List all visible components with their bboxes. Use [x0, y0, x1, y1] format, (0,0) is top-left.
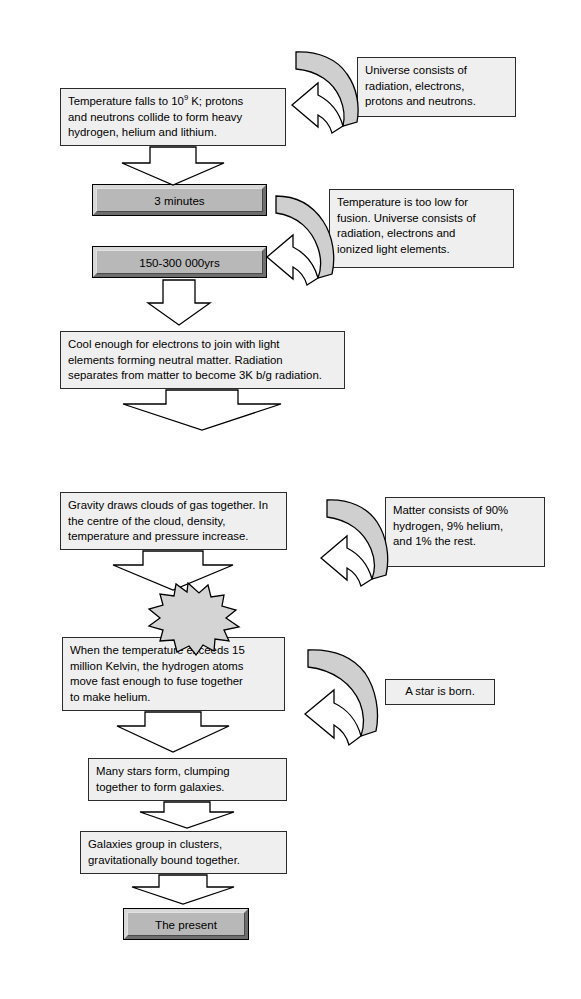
box-line: gravitationally bound together.: [88, 853, 279, 869]
box-line: fusion. Universe consists of: [337, 211, 506, 227]
box-line: A star is born.: [393, 684, 487, 700]
box-line: Universe consists of: [365, 63, 508, 79]
timebox-150-300-kyrs: 150-300 000yrs: [92, 246, 267, 278]
curved-arrow-matter-consists: [321, 500, 388, 586]
box-line: separates from matter to become 3K b/g r…: [68, 368, 337, 384]
curved-arrow-temperature-too-low: [267, 196, 334, 285]
box-line: and 1% the rest.: [393, 534, 537, 550]
box-line: elements forming neutral matter. Radiati…: [68, 353, 337, 369]
box-line: Matter consists of 90%: [393, 503, 537, 519]
down-arrow-to-the-present: [132, 875, 234, 904]
curved-arrow-universe-consists: [292, 52, 358, 133]
box-line: move fast enough to fuse together: [70, 674, 277, 690]
bang-label: BANG!: [148, 598, 228, 611]
curved-arrow-a-star-is-born: [305, 650, 378, 745]
diagram-canvas: Temperature falls to 109 K; protons and …: [0, 0, 581, 999]
box-many-stars: Many stars form, clumping together to fo…: [88, 758, 287, 801]
box-line: radiation, electrons and: [337, 226, 506, 242]
down-arrow-to-cool-enough: [148, 280, 210, 325]
box-line: hydrogen, 9% helium,: [393, 519, 537, 535]
box-line: Gravity draws clouds of gas together. In: [68, 498, 279, 514]
box-line: ionized light elements.: [337, 242, 506, 258]
timebox-label: 3 minutes: [96, 188, 263, 212]
box-cool-enough: Cool enough for electrons to join with l…: [60, 331, 345, 389]
box-line: together to form galaxies.: [96, 780, 279, 796]
box-line: the centre of the cloud, density,: [68, 514, 279, 530]
box-line: to make helium.: [70, 690, 277, 706]
box-matter-consists: Matter consists of 90% hydrogen, 9% heli…: [385, 497, 545, 567]
timebox-label: 150-300 000yrs: [96, 250, 263, 274]
box-line: Many stars form, clumping: [96, 764, 279, 780]
timebox-label: The present: [127, 912, 245, 936]
box-gravity-draws: Gravity draws clouds of gas together. In…: [60, 492, 287, 550]
box-temperature-falls: Temperature falls to 109 K; protons and …: [60, 88, 286, 146]
box-line: Cool enough for electrons to join with l…: [68, 337, 337, 353]
box-line: million Kelvin, the hydrogen atoms: [70, 659, 277, 675]
down-arrow-to-many-stars: [117, 712, 229, 752]
box-line: When the temperature exceeds 15: [70, 643, 277, 659]
down-arrow-below-cool-enough: [123, 390, 281, 430]
box-line: hydrogen, helium and lithium.: [68, 125, 278, 141]
box-universe-consists: Universe consists of radiation, electron…: [357, 57, 516, 117]
down-arrow-to-galaxies: [140, 802, 234, 828]
box-line: Temperature falls to 109 K; protons: [68, 94, 278, 110]
box-when-temperature: When the temperature exceeds 15 million …: [62, 637, 285, 711]
timebox-the-present: The present: [123, 908, 249, 940]
box-a-star-is-born: A star is born.: [385, 679, 495, 705]
box-temperature-too-low: Temperature is too low for fusion. Unive…: [329, 189, 514, 268]
box-line: Temperature is too low for: [337, 195, 506, 211]
down-arrow-to-3-minutes: [122, 147, 224, 185]
box-line: radiation, electrons,: [365, 79, 508, 95]
box-line: and neutrons collide to form heavy: [68, 110, 278, 126]
box-line: Galaxies group in clusters,: [88, 837, 279, 853]
box-galaxies-group: Galaxies group in clusters, gravitationa…: [80, 831, 287, 874]
box-line: protons and neutrons.: [365, 94, 508, 110]
box-line: temperature and pressure increase.: [68, 529, 279, 545]
down-arrow-to-bang: [113, 551, 233, 590]
timebox-3-minutes: 3 minutes: [92, 184, 267, 216]
